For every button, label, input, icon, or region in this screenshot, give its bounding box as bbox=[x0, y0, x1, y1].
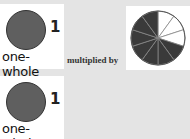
fraction-pie-panel bbox=[126, 6, 190, 70]
whole-panel-bottom: 1 one-whole bbox=[0, 76, 64, 139]
whole-label: one-whole bbox=[2, 49, 64, 79]
whole-value: 1 bbox=[50, 18, 60, 36]
whole-circle-icon bbox=[6, 82, 46, 122]
fraction-pie-icon bbox=[129, 9, 187, 67]
whole-panel-top: 1 one-whole bbox=[0, 4, 64, 69]
whole-value: 1 bbox=[50, 90, 60, 108]
whole-label: one-whole bbox=[2, 121, 64, 139]
operator-label: multiplied by bbox=[67, 55, 118, 65]
whole-circle-icon bbox=[6, 10, 46, 50]
